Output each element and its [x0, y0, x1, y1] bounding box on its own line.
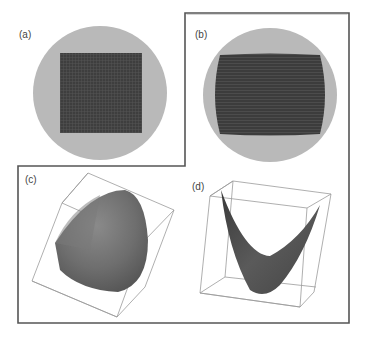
panel-c-surface [32, 173, 174, 317]
panel-a-label: (a) [19, 29, 31, 40]
panel-b-label: (b) [195, 29, 207, 40]
panel-d-label: (d) [192, 181, 204, 192]
panel-d-surface [200, 181, 331, 307]
panel-a-disk [33, 26, 167, 160]
panel-b-disk [203, 28, 337, 162]
figure-drawing [0, 0, 370, 338]
panel-c-label: (c) [25, 174, 37, 185]
figure-canvas: (a) (b) (c) (d) [0, 0, 370, 338]
